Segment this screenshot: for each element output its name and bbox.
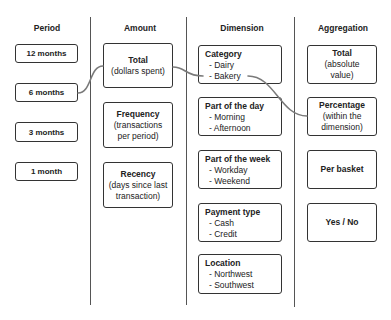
amount-box-recency: Recency (days since last transaction) bbox=[103, 162, 173, 208]
dimension-title: Category bbox=[205, 49, 281, 60]
period-box-6-months: 6 months bbox=[15, 83, 78, 102]
dimension-header: Dimension bbox=[198, 22, 286, 34]
dimension-title: Payment type bbox=[205, 207, 281, 218]
column-divider bbox=[294, 17, 295, 307]
amount-description: transaction) bbox=[116, 191, 160, 202]
dimension-box-location: Location - Northwest - Southwest bbox=[198, 254, 282, 294]
dimension-box-part-of-the-week: Part of the week - Workday - Weekend bbox=[198, 150, 282, 189]
period-box-1-month: 1 month bbox=[15, 162, 78, 181]
amount-description: (transactions bbox=[114, 120, 163, 131]
dimension-option: - Morning bbox=[209, 112, 281, 123]
aggregation-box-per-basket: Per basket bbox=[307, 150, 377, 189]
aggregation-title: Percentage bbox=[319, 100, 365, 111]
aggregation-box-percentage: Percentage (within the dimension) bbox=[307, 97, 377, 136]
aggregation-box-yes-no: Yes / No bbox=[307, 203, 377, 242]
amount-description: (dollars spent) bbox=[111, 66, 165, 77]
dimension-title: Part of the day bbox=[205, 101, 281, 112]
aggregation-description: value) bbox=[330, 70, 353, 81]
period-box-12-months: 12 months bbox=[15, 44, 78, 63]
period-label: 12 months bbox=[26, 49, 66, 58]
amount-title: Frequency bbox=[117, 109, 160, 120]
aggregation-title: Yes / No bbox=[325, 217, 358, 228]
column-divider bbox=[186, 17, 187, 305]
aggregation-description: dimension) bbox=[321, 122, 363, 133]
aggregation-title: Per basket bbox=[321, 164, 364, 175]
amount-title: Total bbox=[128, 55, 148, 66]
dimension-option: - Bakery bbox=[209, 71, 281, 82]
period-box-3-months: 3 months bbox=[15, 122, 78, 142]
dimension-box-payment-type: Payment type - Cash - Credit bbox=[198, 203, 282, 242]
dimension-option: - Credit bbox=[209, 229, 281, 240]
dimension-option: - Southwest bbox=[209, 280, 281, 291]
amount-box-total: Total (dollars spent) bbox=[103, 43, 173, 88]
feature-diagram: Period Amount Dimension Aggregation 12 m… bbox=[0, 0, 391, 320]
period-label: 6 months bbox=[29, 88, 65, 97]
dimension-title: Location bbox=[205, 258, 281, 269]
aggregation-header: Aggregation bbox=[300, 22, 386, 34]
dimension-option: - Workday bbox=[209, 165, 281, 176]
aggregation-description: (absolute bbox=[325, 59, 360, 70]
aggregation-box-total: Total (absolute value) bbox=[307, 45, 377, 84]
amount-box-frequency: Frequency (transactions per period) bbox=[103, 102, 173, 148]
amount-description: per period) bbox=[117, 131, 158, 142]
amount-header: Amount bbox=[100, 22, 180, 34]
column-divider bbox=[90, 17, 91, 305]
dimension-box-category: Category - Dairy - Bakery bbox=[198, 45, 282, 84]
dimension-option: - Northwest bbox=[209, 269, 281, 280]
dimension-option: - Weekend bbox=[209, 176, 281, 187]
period-label: 3 months bbox=[29, 128, 65, 137]
period-header: Period bbox=[15, 22, 79, 34]
amount-description: (days since last bbox=[109, 180, 168, 191]
dimension-title: Part of the week bbox=[205, 154, 281, 165]
dimension-option: - Dairy bbox=[209, 60, 281, 71]
aggregation-title: Total bbox=[332, 48, 352, 59]
amount-title: Recency bbox=[121, 169, 156, 180]
dimension-option: - Afternoon bbox=[209, 123, 281, 134]
dimension-box-part-of-the-day: Part of the day - Morning - Afternoon bbox=[198, 97, 282, 136]
period-label: 1 month bbox=[31, 167, 62, 176]
dimension-option: - Cash bbox=[209, 218, 281, 229]
aggregation-description: (within the bbox=[323, 111, 362, 122]
